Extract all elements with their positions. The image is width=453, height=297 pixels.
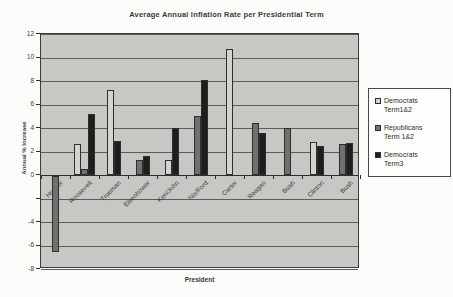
y-tick-label-12: 12: [0, 30, 34, 37]
gridline-y-6: [41, 105, 358, 106]
legend-item-democrats-term3: Democrats Term3: [375, 151, 446, 168]
x-tick-mark-0: [41, 175, 42, 179]
y-tick-label-0: 0: [0, 171, 34, 178]
x-axis-title: President: [40, 276, 359, 283]
gridline-y--6: [41, 246, 358, 247]
legend-label-line: Term 1&2: [384, 133, 423, 142]
x-tick-mark-11: [360, 175, 361, 179]
bar-7-s1: [252, 123, 259, 175]
x-tick-mark-2: [99, 175, 100, 179]
x-tick-mark-1: [70, 175, 71, 179]
bar-5-s1: [194, 116, 201, 175]
y-tick-mark-0: [36, 174, 40, 175]
bar-1-s0: [74, 144, 81, 175]
legend-label: Democrats Term3: [384, 151, 418, 168]
y-tick-mark-6: [36, 104, 40, 105]
bar-3-s2: [143, 156, 150, 175]
y-tick-label-6: 6: [0, 100, 34, 107]
gridline-y-8: [41, 81, 358, 82]
x-tick-mark-7: [244, 175, 245, 179]
legend-label-line: Democrats: [384, 97, 418, 106]
legend-item-democrats-term12: Democrats Term1&2: [375, 97, 446, 114]
x-tick-mark-5: [186, 175, 187, 179]
x-tick-mark-3: [128, 175, 129, 179]
y-tick-mark-8: [36, 80, 40, 81]
x-tick-mark-9: [302, 175, 303, 179]
bar-4-s2: [172, 128, 179, 175]
bar-8-s1: [284, 128, 291, 175]
bar-2-s0: [107, 90, 114, 175]
y-tick-label-8: 8: [0, 77, 34, 84]
legend-swatch-democrats-term3: [375, 152, 381, 158]
y-tick-label--6: -6: [0, 241, 34, 248]
bar-9-s2: [317, 146, 324, 175]
bar-10-s1: [339, 144, 346, 175]
legend-label-line: Term3: [384, 160, 418, 169]
bar-6-s0: [226, 49, 233, 175]
legend-label-line: Democrats: [384, 151, 418, 160]
x-tick-mark-8: [273, 175, 274, 179]
bar-3-s1: [136, 160, 143, 175]
legend-swatch-democrats-term12: [375, 98, 381, 104]
gridline-y--8: [41, 269, 358, 270]
gridline-y--2: [41, 199, 358, 200]
legend-label-line: Term1&2: [384, 106, 418, 115]
chart-title: Average Annual Inflation Rate per Presid…: [0, 10, 453, 19]
y-tick-mark-10: [36, 57, 40, 58]
y-tick-label-10: 10: [0, 53, 34, 60]
x-tick-mark-4: [157, 175, 158, 179]
gridline-y-10: [41, 58, 358, 59]
bar-5-s2: [201, 80, 208, 175]
bar-10-s2: [346, 143, 353, 175]
legend-label-line: Republicans: [384, 124, 423, 133]
y-tick-label-4: 4: [0, 124, 34, 131]
gridline-y-12: [41, 34, 358, 35]
y-tick-mark--6: [36, 245, 40, 246]
scanned-chart-page: Average Annual Inflation Rate per Presid…: [0, 0, 453, 297]
y-tick-mark-2: [36, 151, 40, 152]
y-tick-mark-4: [36, 127, 40, 128]
plot-area: HooverRooseveltTruemanEisenhowerKen/John…: [40, 33, 359, 268]
legend-label: Republicans Term 1&2: [384, 124, 423, 141]
legend: Democrats Term1&2 Republicans Term 1&2 D…: [368, 88, 451, 177]
y-tick-label--8: -8: [0, 265, 34, 272]
legend-item-republicans-term12: Republicans Term 1&2: [375, 124, 446, 141]
legend-swatch-republicans-term12: [375, 125, 381, 131]
bar-9-s0: [310, 142, 317, 175]
x-tick-mark-6: [215, 175, 216, 179]
bar-1-s2: [88, 114, 95, 175]
bar-4-s0: [165, 160, 172, 175]
bar-0-s1: [52, 176, 59, 252]
y-tick-mark--4: [36, 221, 40, 222]
bar-1-s1: [81, 169, 88, 175]
legend-label: Democrats Term1&2: [384, 97, 418, 114]
bar-7-s2: [259, 133, 266, 175]
gridline-y-0: [41, 175, 358, 176]
bar-2-s2: [114, 141, 121, 175]
x-tick-mark-10: [331, 175, 332, 179]
y-tick-mark-12: [36, 33, 40, 34]
y-tick-mark--8: [36, 268, 40, 269]
y-tick-label-2: 2: [0, 147, 34, 154]
